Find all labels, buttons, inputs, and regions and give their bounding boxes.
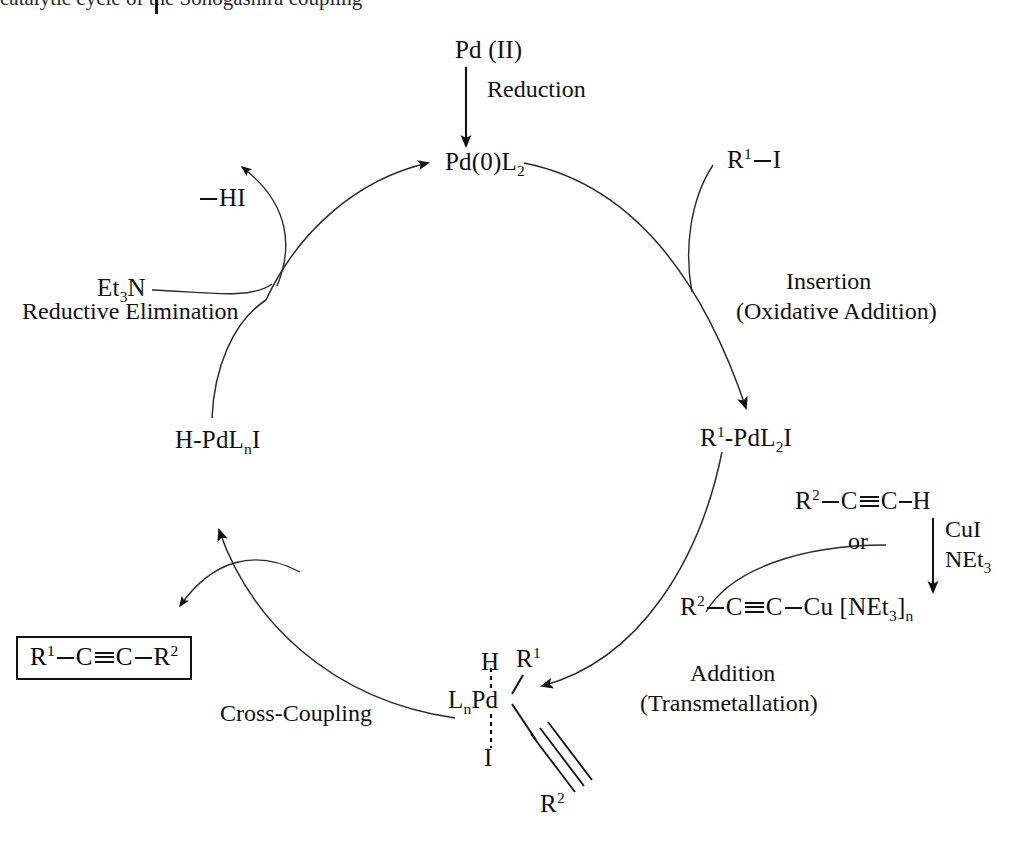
product-r2-superscript: 2 [170, 642, 178, 659]
complex-alkyne-triple-a [531, 734, 575, 792]
complex-ln-subscript: n [463, 700, 471, 717]
complex-ligand-h: H [481, 648, 499, 677]
reagent-cui-label: CuI [945, 516, 981, 544]
step-cross-coupling-label: Cross-Coupling [220, 700, 372, 728]
r1-superscript: 1 [744, 145, 752, 162]
hydride-ln-subscript: n [244, 440, 252, 457]
bond-c-h [899, 501, 912, 503]
bond-product-c-r2 [135, 657, 152, 659]
step-reduction-label: Reduction [487, 76, 586, 104]
hi-release-arc [242, 167, 286, 286]
et3n-subscript: 3 [120, 288, 128, 305]
r1i-feeder-arc [689, 165, 713, 292]
species-copper-acetylide: R2CCCu [NEt3]n [680, 593, 913, 622]
reagent-or-label: or [848, 528, 868, 556]
adduct-l2-subscript: 2 [776, 438, 784, 455]
species-terminal-alkyne: R2CCH [795, 487, 931, 516]
product-box: R1CCR2 [16, 636, 192, 680]
acetylide-net3-subscript: 3 [889, 607, 897, 624]
complex-bond-r1 [512, 675, 523, 694]
cycle-arc-top-left [266, 163, 428, 300]
bond-c-cu [785, 607, 802, 609]
cycle-arc-right [524, 163, 746, 408]
acetylide-r2-superscript: 2 [697, 592, 705, 609]
species-hydride-complex: H-PdLnI [175, 426, 261, 455]
cycle-arrows-svg [0, 0, 1035, 856]
triple-bond-alkyne [860, 496, 879, 507]
product-release-arc [180, 560, 300, 606]
bond-r1-i [754, 160, 771, 162]
step-insertion-line1: Insertion [786, 268, 871, 296]
species-product: R1CCR2 [30, 643, 178, 670]
alkyne-r2-superscript: 2 [812, 486, 820, 503]
species-oxidative-adduct: R1-PdL2I [700, 424, 792, 453]
triple-bond-acetylide [745, 602, 764, 613]
species-r1-iodide: R1I [727, 146, 781, 175]
complex-ligand-r1: R1 [516, 645, 541, 674]
step-addition-line1: Addition [690, 660, 775, 688]
step-addition-line2: (Transmetallation) [640, 690, 818, 718]
complex-alkyne-triple-b [540, 728, 584, 786]
triple-bond-product [95, 652, 114, 663]
bond-hi-dash [200, 198, 217, 200]
reagent-net3-label: NEt3 [945, 546, 991, 574]
complex-ligand-i: I [484, 744, 493, 773]
complex-alkyne-triple-c [548, 722, 592, 780]
step-insertion-line2: (Oxidative Addition) [736, 298, 937, 326]
adduct-r1-superscript: 1 [717, 423, 725, 440]
et3n-feeder-arc [152, 284, 272, 294]
complex-center-lnpd: LnPd [448, 686, 498, 715]
acetylide-n-subscript: n [905, 607, 913, 624]
bond-product-r1-c [57, 657, 74, 659]
bond-r2-c [822, 501, 839, 503]
diagram-canvas: catalytic cycle of the Sonogashira coupl… [0, 0, 1035, 856]
bond-acetylide-r2-c [707, 607, 724, 609]
pd-zero-subscript: 2 [517, 162, 525, 179]
product-r1-superscript: 1 [47, 642, 55, 659]
complex-r2-superscript: 2 [557, 789, 565, 806]
cycle-arc-bottom-left [219, 530, 455, 718]
complex-r1-superscript: 1 [533, 644, 541, 661]
complex-alkynyl-r2: R2 [540, 790, 565, 819]
species-pd-zero: Pd(0)L2 [445, 148, 525, 177]
species-pd-two: Pd (II) [455, 36, 522, 65]
cycle-arc-bottom-right [542, 452, 722, 686]
species-et3n: Et3N [97, 274, 146, 303]
species-hi-release: HI [198, 184, 246, 213]
net3-subscript: 3 [984, 560, 991, 576]
